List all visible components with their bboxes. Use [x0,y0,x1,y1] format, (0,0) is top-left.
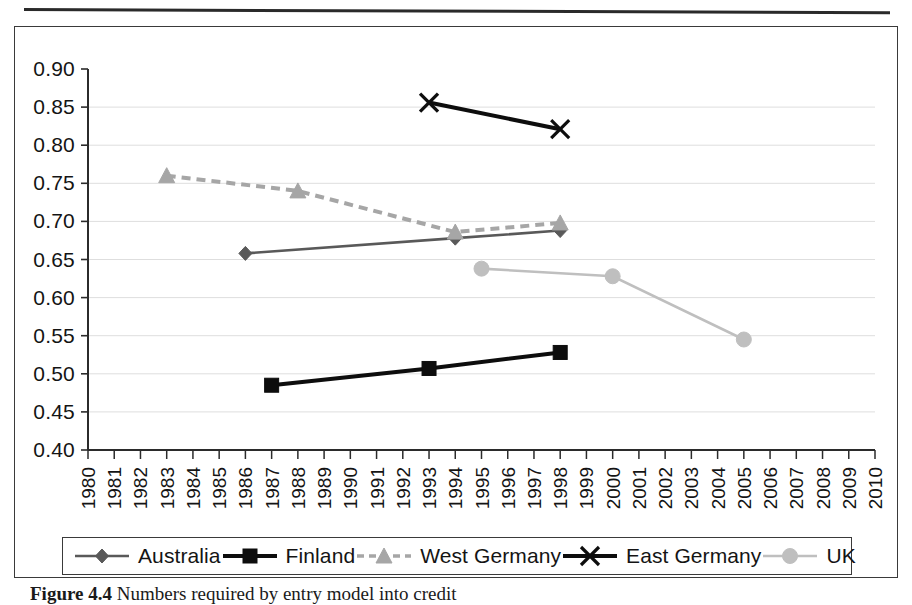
x-axis-tick-label: 1986 [235,467,256,509]
x-axis-tick-label: 1987 [262,467,283,509]
y-axis-tick-label: 0.65 [33,248,75,271]
x-axis-tick-label: 1988 [288,467,309,509]
x-axis-tick-label: 2005 [734,467,755,509]
x-axis-tick-label: 1989 [314,467,335,509]
triangle-marker [376,548,392,563]
x-axis-tick-label: 1998 [550,467,571,509]
legend-item-australia[interactable]: Australia [73,544,221,568]
x-axis-tick-label: 1999 [576,467,597,509]
legend-label: Australia [138,544,221,568]
legend-item-east-germany[interactable]: East Germany [561,544,761,568]
x-axis-tick-label: 1981 [104,467,125,509]
x-axis-tick-label: 1996 [498,467,519,509]
y-axis-tick-label: 0.45 [33,400,75,423]
y-axis-tick-label: 0.70 [33,209,75,232]
series-line [429,103,560,130]
chart-legend: AustraliaFinlandWest GermanyEast Germany… [62,537,852,575]
legend-label: Finland [286,544,356,568]
legend-label: UK [826,544,855,568]
line-chart-svg: 0.900.850.800.750.700.650.600.550.500.45… [0,18,912,578]
y-axis-tick-label: 0.85 [33,95,75,118]
y-axis-tick-label: 0.40 [33,438,75,461]
x-axis-tick-label: 2009 [839,467,860,509]
x-axis-tick-label: 1994 [445,467,466,510]
series-line [167,176,561,232]
triangle-marker [355,545,413,567]
circle-marker [605,269,620,284]
y-axis-tick-label: 0.80 [33,133,75,156]
caption-label: Figure 4.4 [30,583,112,604]
legend-label: West Germany [420,544,561,568]
legend-label: East Germany [626,544,761,568]
circle-marker [736,332,751,347]
series-australia [239,224,567,261]
y-axis-tick-label: 0.60 [33,286,75,309]
series-finland [265,345,568,392]
y-axis-tick-label: 0.50 [33,362,75,385]
x-axis-tick-label: 2002 [655,467,676,509]
x-axis-tick-label: 1992 [393,467,414,509]
series-line [272,352,561,385]
y-axis-tick-label: 0.55 [33,324,75,347]
legend-item-finland[interactable]: Finland [221,544,356,568]
figure-caption: Figure 4.4 Numbers required by entry mod… [30,583,890,605]
x-axis-tick-label: 1983 [157,467,178,509]
circle-marker [474,261,489,276]
x-axis-tick-label: 1991 [367,467,388,509]
diamond-marker [96,549,109,563]
cross-marker [561,545,619,567]
square-marker [422,361,436,375]
diamond-marker [73,545,131,567]
x-axis-tick-label: 1982 [130,467,151,509]
x-axis-tick-label: 2008 [813,467,834,509]
x-axis-tick-label: 1984 [183,467,204,510]
x-axis-tick-label: 1995 [472,467,493,509]
page-separator-rule [24,8,890,14]
x-axis-tick-label: 2007 [786,467,807,509]
x-axis-tick-label: 2006 [760,467,781,509]
y-axis-tick-label: 0.75 [33,171,75,194]
legend-item-uk[interactable]: UK [761,544,855,568]
caption-text: Numbers required by entry model into cre… [117,583,457,604]
circle-marker [783,549,798,564]
x-axis-tick-label: 1993 [419,467,440,509]
x-axis-tick-label: 2003 [681,467,702,509]
figure-container: 0.900.850.800.750.700.650.600.550.500.45… [0,18,912,578]
square-marker [265,378,279,392]
square-marker [221,545,279,567]
x-axis-tick-label: 1985 [209,467,230,509]
y-axis-tick-label: 0.90 [33,57,75,80]
square-marker [553,345,567,359]
diamond-marker [239,246,252,260]
x-axis-tick-label: 1997 [524,467,545,509]
square-marker [243,549,257,563]
x-axis-tick-label: 1980 [78,467,99,509]
series-uk [474,261,751,347]
series-east-germany [420,94,569,139]
series-west-germany [159,168,569,239]
x-axis-tick-label: 2010 [865,467,886,509]
series-line [245,231,560,254]
circle-marker [761,545,819,567]
plot-area: 0.900.850.800.750.700.650.600.550.500.45… [0,18,912,578]
legend-item-west-germany[interactable]: West Germany [355,544,561,568]
x-axis-tick-label: 2001 [629,467,650,509]
x-axis-tick-label: 2004 [708,467,729,510]
x-axis-tick-label: 1990 [340,467,361,509]
x-axis-tick-label: 2000 [603,467,624,509]
